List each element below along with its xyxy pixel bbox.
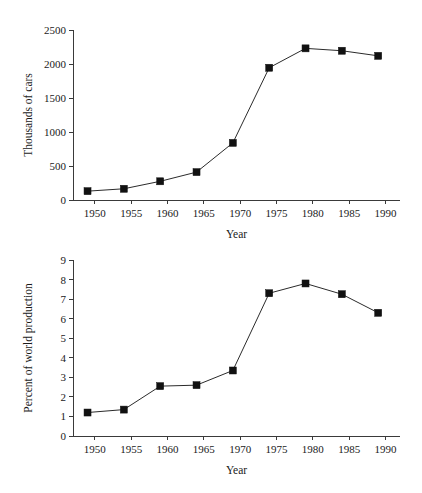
y-tick-label: 2500 <box>44 24 67 36</box>
y-tick-label: 6 <box>61 313 67 325</box>
data-point-marker <box>120 185 127 192</box>
data-point-marker <box>84 409 91 416</box>
x-tick-label: 1955 <box>120 207 143 219</box>
y-axis-title: Percent of world production <box>22 283 35 413</box>
data-point-marker <box>266 290 273 297</box>
x-tick-label: 1980 <box>302 443 325 455</box>
x-tick-label: 1980 <box>302 207 325 219</box>
data-point-marker <box>193 169 200 176</box>
x-tick-label: 1970 <box>229 207 252 219</box>
y-tick-label: 3 <box>61 371 67 383</box>
x-tick-label: 1970 <box>229 443 252 455</box>
x-axis-title: Year <box>226 228 247 240</box>
data-point-marker <box>84 188 91 195</box>
x-tick-label: 1985 <box>338 207 361 219</box>
x-tick-label: 1985 <box>338 443 361 455</box>
data-point-marker <box>266 64 273 71</box>
x-tick-label: 1975 <box>265 443 288 455</box>
y-tick-label: 4 <box>61 352 67 364</box>
percent-chart-svg: 0123456789195019551960196519701975198019… <box>0 247 422 493</box>
data-point-marker <box>157 178 164 185</box>
y-tick-label: 7 <box>61 293 67 305</box>
data-point-marker <box>302 45 309 52</box>
data-point-marker <box>375 309 382 316</box>
axis-frame <box>73 30 400 200</box>
data-point-marker <box>375 52 382 59</box>
x-tick-label: 1975 <box>265 207 288 219</box>
y-axis-title: Thousands of cars <box>22 73 34 157</box>
data-series-line <box>88 283 379 412</box>
data-point-marker <box>193 382 200 389</box>
x-tick-label: 1965 <box>193 443 216 455</box>
y-tick-label: 8 <box>61 274 67 286</box>
figure-container: 0500100015002000250019501955196019651970… <box>0 0 422 493</box>
chart-panel-cars: 0500100015002000250019501955196019651970… <box>0 0 422 247</box>
y-tick-label: 1 <box>61 410 67 422</box>
y-tick-label: 2 <box>61 391 67 403</box>
y-tick-label: 0 <box>61 430 67 442</box>
x-tick-label: 1950 <box>84 443 107 455</box>
x-tick-label: 1960 <box>156 443 179 455</box>
data-series-line <box>88 48 379 191</box>
y-tick-label: 2000 <box>44 58 67 70</box>
y-tick-label: 1500 <box>44 92 67 104</box>
x-tick-label: 1950 <box>84 207 107 219</box>
y-tick-label: 0 <box>61 194 67 206</box>
y-tick-label: 1000 <box>44 126 67 138</box>
data-point-marker <box>302 280 309 287</box>
y-tick-label: 9 <box>61 254 67 266</box>
data-point-marker <box>338 47 345 54</box>
data-point-marker <box>157 383 164 390</box>
x-tick-label: 1990 <box>374 443 397 455</box>
y-tick-label: 5 <box>61 332 67 344</box>
y-tick-label: 500 <box>50 160 67 172</box>
x-tick-label: 1990 <box>374 207 397 219</box>
cars-chart-svg: 0500100015002000250019501955196019651970… <box>0 0 422 247</box>
data-point-marker <box>120 406 127 413</box>
x-axis-title: Year <box>226 464 247 476</box>
x-tick-label: 1955 <box>120 443 143 455</box>
x-tick-label: 1960 <box>156 207 179 219</box>
data-point-marker <box>338 291 345 298</box>
data-point-marker <box>229 367 236 374</box>
data-point-marker <box>229 139 236 146</box>
chart-panel-percent: 0123456789195019551960196519701975198019… <box>0 247 422 493</box>
x-tick-label: 1965 <box>193 207 216 219</box>
